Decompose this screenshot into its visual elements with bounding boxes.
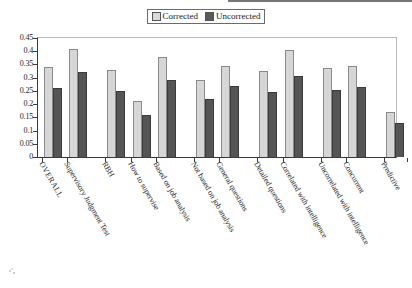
bar-corrected <box>44 67 53 157</box>
y-axis-tick-label: 0.1 <box>24 127 33 135</box>
bar-corrected <box>221 66 230 157</box>
bar-uncorrected <box>78 72 87 157</box>
bar-uncorrected <box>142 115 151 157</box>
x-axis-label: RBH <box>101 160 117 178</box>
bar-corrected <box>348 66 357 157</box>
x-axis-label: OVERALL <box>37 160 65 199</box>
square-swatch-icon <box>205 12 214 21</box>
x-axis-label: Not based on job analysis <box>189 160 237 234</box>
bar-group <box>348 38 366 157</box>
bar-group <box>221 38 239 157</box>
scan-speckle-artifact <box>8 268 18 276</box>
y-axis-tick-label: 0.35 <box>20 60 33 68</box>
y-axis-tick-mark <box>33 51 37 52</box>
bar-group <box>196 38 214 157</box>
bar-corrected <box>323 68 332 157</box>
bar-group <box>323 38 341 157</box>
legend-box: Corrected Uncorrected <box>147 9 266 24</box>
legend-entry-corrected: Corrected <box>152 11 198 21</box>
y-axis-tick-label: 0.2 <box>24 100 33 108</box>
bar-chart-figure: Corrected Uncorrected 00.050.10.150.20.2… <box>0 0 412 288</box>
bar-uncorrected <box>357 87 366 157</box>
y-axis-tick-mark <box>33 157 37 158</box>
y-axis-tick-mark <box>33 117 37 118</box>
y-axis-tick-mark <box>33 144 37 145</box>
y-axis-tick-mark <box>33 104 37 105</box>
bar-group <box>133 38 151 157</box>
bar-corrected <box>196 80 205 157</box>
y-axis-tick-label: 0.05 <box>20 140 33 148</box>
bar-corrected <box>107 70 116 157</box>
bar-group <box>107 38 125 157</box>
bar-uncorrected <box>268 92 277 157</box>
bar-corrected <box>386 112 395 157</box>
bar-group <box>44 38 62 157</box>
y-axis-tick-label: 0.45 <box>20 34 33 42</box>
y-axis-tick-label: 0.15 <box>20 113 33 121</box>
bar-group <box>259 38 277 157</box>
bar-uncorrected <box>116 91 125 157</box>
bar-uncorrected <box>332 90 341 157</box>
legend-label-uncorrected: Uncorrected <box>216 11 260 21</box>
bar-uncorrected <box>53 88 62 157</box>
legend-label-corrected: Corrected <box>163 11 198 21</box>
bar-uncorrected <box>395 123 404 157</box>
y-axis-tick-mark <box>33 78 37 79</box>
y-axis-tick-mark <box>33 64 37 65</box>
x-axis-label: Concurrent <box>341 160 366 195</box>
x-axis-label: Based on job analysis <box>151 160 193 223</box>
bar-uncorrected <box>167 80 176 157</box>
bar-series-container <box>38 38 396 157</box>
square-swatch-icon <box>152 12 161 21</box>
bar-uncorrected <box>294 76 303 157</box>
y-axis-tick-label: 0.3 <box>24 74 33 82</box>
bar-corrected <box>259 71 268 157</box>
y-axis: 00.050.10.150.20.250.30.350.40.45 <box>0 37 37 158</box>
bar-corrected <box>133 101 142 157</box>
chart-legend: Corrected Uncorrected <box>0 9 412 24</box>
bar-corrected <box>158 57 167 157</box>
bar-corrected <box>69 49 78 157</box>
x-axis-label: Predictive <box>379 160 403 192</box>
scan-edge-artifact <box>228 0 412 2</box>
legend-entry-uncorrected: Uncorrected <box>205 11 260 21</box>
bar-group <box>69 38 87 157</box>
y-axis-tick-mark <box>33 91 37 92</box>
bar-group <box>285 38 303 157</box>
bar-group <box>158 38 176 157</box>
bar-group <box>386 38 404 157</box>
y-axis-tick-mark <box>33 38 37 39</box>
y-axis-tick-mark <box>33 131 37 132</box>
bar-uncorrected <box>205 99 214 157</box>
y-axis-tick-label: 0.4 <box>24 47 33 55</box>
bar-uncorrected <box>230 86 239 157</box>
y-axis-tick-label: 0.25 <box>20 87 33 95</box>
x-axis-labels: OVERALLSupervisory Judgment TestRBHHow t… <box>0 160 412 288</box>
bar-corrected <box>285 50 294 157</box>
